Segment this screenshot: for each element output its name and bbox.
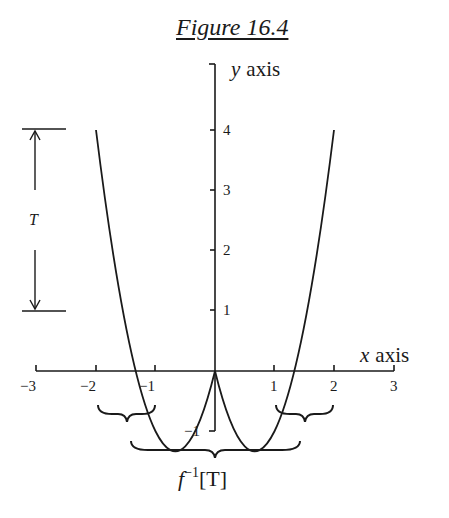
x-tick-1: 1 xyxy=(270,378,278,394)
x-axis-label: xaxis xyxy=(359,343,409,367)
y-tick-4: 4 xyxy=(223,122,231,138)
y-tick-2: 2 xyxy=(223,242,231,258)
y-tick-3: 3 xyxy=(223,182,231,198)
x-tick-neg3: −3 xyxy=(20,378,36,394)
x-tick-3: 3 xyxy=(390,378,398,394)
x-tick-neg2: −2 xyxy=(80,378,96,394)
x-tick-2: 2 xyxy=(330,378,338,394)
y-axis-label: yaxis xyxy=(229,57,280,81)
interval-T-label: T xyxy=(29,211,39,228)
brace-large xyxy=(131,441,300,458)
parabola-plot: 4 3 2 1 −1 −3 −2 −1 1 2 3 yaxis xaxis T … xyxy=(0,0,449,518)
y-tick-1: 1 xyxy=(223,302,231,318)
preimage-label: f−1[T] xyxy=(178,465,227,491)
